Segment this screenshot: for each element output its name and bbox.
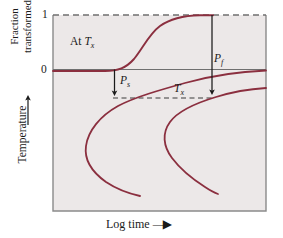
y-tick-label-0: 0 xyxy=(41,63,47,75)
y-tick-label-1: 1 xyxy=(42,8,48,20)
y-axis-label-temperature: Temperature xyxy=(16,90,29,180)
annotation-pf-symbol: P xyxy=(214,52,221,64)
annotation-ps: Ps xyxy=(120,74,130,89)
annotation-pf-subscript: f xyxy=(221,58,223,67)
annotation-at-tx-prefix: At xyxy=(70,35,84,47)
annotation-ps-subscript: s xyxy=(127,80,130,89)
annotation-at-tx: At Tx xyxy=(70,35,94,50)
ttt-diagram-figure: Fraction transformed Temperature Log tim… xyxy=(0,0,283,238)
annotation-ps-symbol: P xyxy=(120,74,127,86)
annotation-tx: Tx xyxy=(174,82,184,97)
y-axis-label-line2: transformed xyxy=(20,0,33,73)
annotation-pf: Pf xyxy=(214,52,223,67)
y-axis-label-line1: Fraction xyxy=(8,0,21,73)
x-axis-arrow-icon: —▶ xyxy=(153,217,170,231)
y-axis-label-fraction-transformed: Fraction transformed xyxy=(8,0,33,73)
plot-canvas xyxy=(0,0,283,238)
annotation-at-tx-subscript: x xyxy=(91,41,95,50)
annotation-tx-subscript: x xyxy=(180,88,184,97)
x-axis-label-group: Log time —▶ xyxy=(106,217,170,232)
x-axis-label-text: Log time xyxy=(106,217,150,231)
y-axis-label-temperature-text: Temperature xyxy=(16,106,28,164)
